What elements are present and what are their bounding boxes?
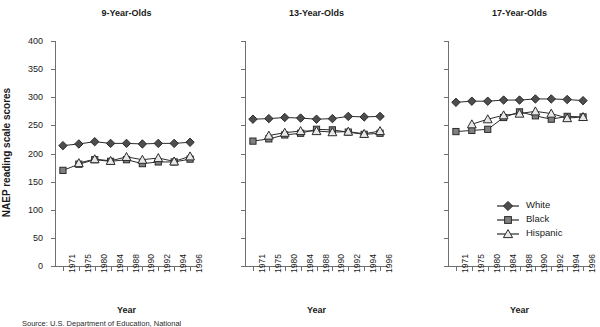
data-point-hispanic bbox=[531, 107, 540, 115]
data-point-white bbox=[499, 96, 507, 104]
data-point-black bbox=[485, 126, 491, 132]
chart-legend: WhiteBlackHispanic bbox=[497, 198, 592, 242]
legend-marker-diamond-icon bbox=[497, 198, 519, 210]
data-point-white bbox=[547, 95, 555, 103]
data-point-white bbox=[579, 96, 587, 104]
legend-label-white: White bbox=[526, 199, 550, 210]
data-point-white bbox=[452, 98, 460, 106]
legend-item-hispanic[interactable]: Hispanic bbox=[497, 226, 562, 238]
legend-label-black: Black bbox=[526, 213, 549, 224]
legend-marker-triangle-icon bbox=[497, 226, 519, 238]
legend-item-black[interactable]: Black bbox=[497, 212, 549, 224]
legend-label-hispanic: Hispanic bbox=[526, 227, 562, 238]
data-point-white bbox=[484, 97, 492, 105]
legend-item-white[interactable]: White bbox=[497, 198, 550, 210]
data-point-white bbox=[563, 95, 571, 103]
data-point-black bbox=[453, 128, 459, 134]
data-point-white bbox=[531, 95, 539, 103]
source-note: Source: U.S. Department of Education, Na… bbox=[22, 319, 181, 327]
data-point-white bbox=[468, 97, 476, 105]
data-point-white bbox=[515, 96, 523, 104]
data-point-hispanic bbox=[467, 120, 476, 128]
legend-marker-square-icon bbox=[497, 212, 519, 224]
